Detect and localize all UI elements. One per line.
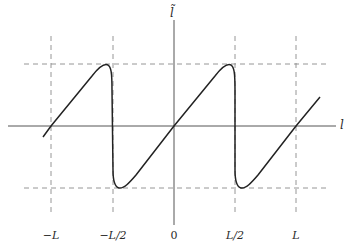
x-tick-zero: 0 (171, 229, 178, 242)
y-axis-label: l̃ (170, 6, 174, 20)
x-tick-minus-half-L: −L/2 (99, 229, 126, 242)
x-tick-minus-L: −L (43, 229, 60, 242)
x-axis-label: l (340, 118, 344, 132)
diagram-canvas (0, 0, 353, 250)
x-tick-L: L (292, 229, 299, 242)
x-tick-half-L: L/2 (226, 229, 244, 242)
axes (8, 20, 336, 225)
